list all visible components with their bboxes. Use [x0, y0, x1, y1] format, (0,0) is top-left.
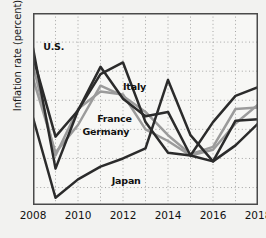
x-tick-label: 2008	[13, 209, 53, 221]
y-axis-title: Inflation rate (percent)	[12, 0, 23, 131]
x-tick-label: 2014	[148, 209, 188, 221]
x-tick-label: 2018	[238, 209, 266, 221]
series-label-us: U.S.	[43, 41, 64, 52]
plot-area: 543210−1 200820102012201420162018 U.S.It…	[33, 13, 258, 205]
series-label-france: France	[97, 113, 132, 124]
plot-svg	[33, 13, 258, 205]
x-tick-label: 2016	[193, 209, 233, 221]
series-label-italy: Italy	[123, 81, 146, 92]
x-tick-label: 2010	[58, 209, 98, 221]
series-label-japan: Japan	[112, 175, 141, 186]
x-tick-label: 2012	[103, 209, 143, 221]
series-label-germany: Germany	[83, 126, 130, 137]
inflation-rate-line-chart: Inflation rate (percent) 543210−1 200820…	[0, 0, 266, 238]
